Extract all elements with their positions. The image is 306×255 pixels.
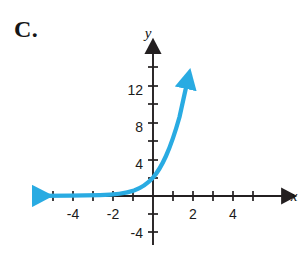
x-tick-label-4: 4 [229,206,237,222]
x-tick-label-neg4: -4 [67,206,80,222]
figure-container: C. [0,0,306,255]
x-tick-label-2: 2 [189,206,197,222]
y-tick-label-4: 4 [135,156,143,172]
y-tick-label-neg4: -4 [131,225,144,241]
y-tick-label-8: 8 [135,119,143,135]
y-tick-label-12: 12 [127,82,143,98]
x-axis-label: x [290,188,298,204]
coordinate-plot: -4 -2 2 4 12 8 4 -4 y x [0,0,306,255]
y-axis-label: y [143,25,152,41]
exponential-curve [38,83,187,196]
x-tick-label-neg2: -2 [107,206,120,222]
